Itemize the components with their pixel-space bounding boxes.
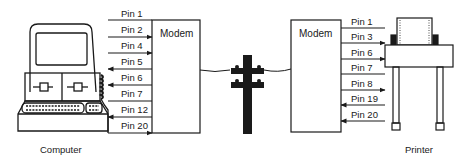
- pin-label: Pin 19: [351, 93, 378, 104]
- pin-label: Pin 20: [351, 109, 378, 120]
- modem-connection-diagram: Computer Pin 1 Pin 2 Pin 4 Pin 5 Pin 6 P…: [0, 0, 467, 160]
- computer-icon: [18, 24, 108, 133]
- pin-label: Pin 8: [351, 78, 373, 89]
- pin-label: Pin 20: [121, 120, 148, 131]
- right-modem-label: Modem: [299, 28, 332, 39]
- pin-label: Pin 12: [121, 104, 148, 115]
- pin-label: Pin 4: [121, 40, 143, 51]
- telephone-pole-icon: [231, 55, 264, 134]
- pin-label: Pin 7: [351, 62, 373, 73]
- pin-label: Pin 6: [351, 47, 373, 58]
- right-pin-labels: Pin 1 Pin 3 Pin 6 Pin 7 Pin 8 Pin 19 Pin…: [351, 16, 378, 120]
- computer-label: Computer: [40, 144, 82, 155]
- pin-label: Pin 7: [121, 88, 143, 99]
- pin-label: Pin 2: [121, 24, 143, 35]
- printer-icon: [385, 18, 453, 130]
- pin-label: Pin 6: [121, 72, 143, 83]
- pin-label: Pin 1: [351, 16, 373, 27]
- pin-label: Pin 3: [351, 31, 373, 42]
- printer-label: Printer: [405, 144, 433, 155]
- pin-label: Pin 1: [121, 8, 143, 19]
- pin-label: Pin 5: [121, 56, 143, 67]
- left-modem-label: Modem: [160, 28, 193, 39]
